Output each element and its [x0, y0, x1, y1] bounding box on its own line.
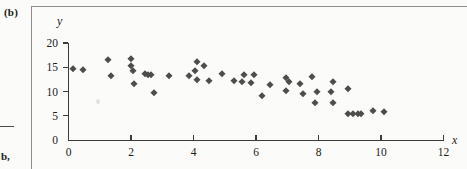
y-tick-label: 15 — [47, 61, 59, 73]
data-point — [201, 62, 209, 70]
data-point — [191, 67, 199, 75]
y-tick-label: 20 — [47, 37, 59, 49]
x-tick — [130, 135, 131, 140]
x-tick-label: 2 — [128, 146, 134, 158]
data-point — [79, 66, 87, 74]
data-point — [205, 77, 213, 85]
x-tick-label: 8 — [316, 146, 322, 158]
data-point — [218, 70, 226, 78]
y-axis-line — [68, 43, 69, 141]
x-axis-line — [68, 140, 444, 141]
y-axis-label: y — [57, 14, 62, 29]
data-point — [193, 58, 201, 66]
y-tick-label: 10 — [47, 86, 59, 98]
y-tick — [63, 67, 68, 68]
data-point — [312, 99, 320, 107]
y-tick — [63, 115, 68, 116]
data-point — [369, 107, 377, 115]
figure-panel-b: (b) b, 024681012 05101520 x y — [0, 0, 467, 169]
data-point — [308, 73, 316, 81]
x-tick — [193, 135, 194, 140]
data-point — [380, 109, 388, 117]
data-point — [285, 78, 293, 86]
data-point — [329, 78, 337, 86]
data-point — [282, 87, 290, 95]
data-point — [296, 80, 304, 88]
x-tick-label: 0 — [66, 146, 72, 158]
y-tick — [63, 91, 68, 92]
x-tick — [68, 135, 69, 140]
data-point — [299, 91, 307, 99]
x-tick-label: 4 — [191, 146, 197, 158]
x-tick-label: 10 — [375, 146, 387, 158]
data-point — [151, 90, 159, 98]
data-point — [69, 65, 77, 73]
data-point — [230, 78, 238, 86]
y-tick-label: 5 — [52, 110, 58, 122]
data-point — [240, 71, 248, 79]
data-point — [130, 80, 138, 88]
data-point — [248, 79, 256, 87]
x-tick-label: 6 — [253, 146, 259, 158]
data-point — [185, 73, 193, 81]
x-axis-label: x — [452, 133, 457, 148]
data-point — [313, 88, 321, 96]
x-tick — [443, 135, 444, 140]
x-tick — [255, 135, 256, 140]
x-tick — [380, 135, 381, 140]
data-point — [238, 78, 246, 86]
data-point — [251, 71, 259, 79]
page-smudge — [96, 99, 100, 104]
data-point — [165, 73, 173, 81]
data-point — [344, 85, 352, 93]
data-point — [193, 77, 201, 85]
y-tick — [63, 42, 68, 43]
data-point — [266, 81, 274, 89]
data-point — [104, 56, 112, 64]
x-tick-label: 12 — [438, 146, 450, 158]
data-point — [107, 73, 115, 81]
x-tick — [318, 135, 319, 140]
data-point — [329, 99, 337, 107]
scatter-plot: 024681012 05101520 x y — [0, 0, 467, 169]
data-point — [327, 88, 335, 96]
y-tick-label: 0 — [52, 134, 58, 146]
data-point — [258, 92, 266, 100]
